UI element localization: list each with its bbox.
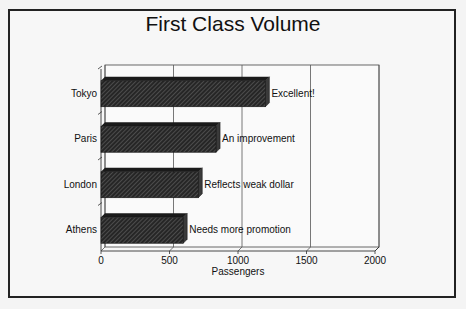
x-tick-label: 2000 [364,255,387,266]
category-label: Athens [66,224,97,235]
bar-annotation: Excellent! [271,88,314,99]
category-label: Paris [74,133,97,144]
x-tick-label: 0 [98,255,104,266]
bar-tokyo [101,77,269,107]
x-axis-label: Passengers [212,266,265,277]
bar-paris [101,122,220,152]
bar-athens [101,213,187,243]
x-tick-label: 1000 [227,255,250,266]
bar-annotation: Needs more promotion [189,224,291,235]
category-label: London [64,179,97,190]
category-label: Tokyo [71,88,98,99]
bar-chart: TokyoExcellent!ParisAn improvementLondon… [0,0,466,309]
x-tick-label: 500 [161,255,178,266]
x-tick-label: 1500 [295,255,318,266]
bar-annotation: Reflects weak dollar [204,179,294,190]
x-axis: 0500100015002000 [98,251,386,266]
bar-london [101,168,202,198]
bar-annotation: An improvement [222,133,295,144]
